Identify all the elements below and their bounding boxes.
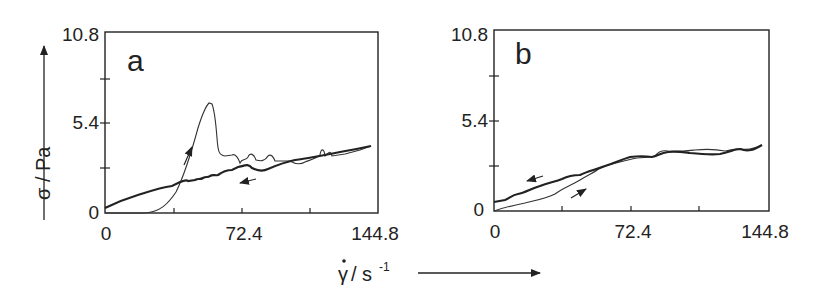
- x-ticks-a: [174, 208, 310, 213]
- x-axis-title-exponent: -1: [379, 260, 390, 274]
- panel-b: b 10.8 5.4 0 0 72.4 144.8: [451, 24, 789, 242]
- panel-label-b: b: [515, 37, 532, 70]
- x-axis-title-symbol: γ: [338, 263, 348, 285]
- figure: σ / Pa a 10.8 5.4 0 0 72.4 144.8: [0, 0, 816, 302]
- plot-frame-b: [494, 30, 769, 211]
- arrow-up-icon-b: [571, 189, 586, 198]
- x-axis-title-group: γ / s -1: [338, 259, 540, 285]
- y-tick-label-b-max: 10.8: [451, 24, 488, 45]
- y-axis-title-group: σ / Pa: [32, 46, 54, 220]
- plot-frame-a: [105, 32, 378, 213]
- x-tick-label-b-max: 144.8: [741, 221, 789, 242]
- series-down-curve-b: [494, 145, 762, 202]
- y-tick-label-b-mid: 5.4: [462, 110, 489, 131]
- y-tick-label-a-max: 10.8: [62, 24, 99, 45]
- x-tick-label-b-mid: 72.4: [615, 221, 652, 242]
- series-down-curve-a: [105, 146, 371, 208]
- arrow-down-icon-a: [240, 179, 256, 183]
- x-tick-label-a-zero: 0: [101, 223, 112, 244]
- x-tick-label-a-mid: 72.4: [226, 223, 263, 244]
- series-up-curve-b: [494, 145, 762, 211]
- y-tick-label-b-zero: 0: [473, 199, 484, 220]
- panel-a: a 10.8 5.4 0 0 72.4 144.8: [62, 24, 399, 244]
- x-ticks-b: [562, 206, 699, 211]
- x-axis-title-unit: / s: [351, 263, 372, 285]
- panel-label-a: a: [127, 44, 144, 77]
- y-tick-label-a-zero: 0: [88, 202, 99, 223]
- arrow-down-icon-b: [527, 176, 543, 181]
- series-up-curve-a: [105, 103, 371, 213]
- y-axis-title: σ / Pa: [32, 146, 54, 200]
- dot-accent-icon: [342, 259, 346, 263]
- x-tick-label-a-max: 144.8: [351, 223, 399, 244]
- y-tick-label-a-mid: 5.4: [73, 112, 100, 133]
- x-tick-label-b-zero: 0: [490, 221, 501, 242]
